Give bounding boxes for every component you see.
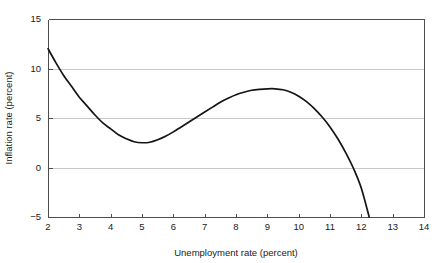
x-tick-label-12: 12 <box>356 221 367 232</box>
y-tick-label-5: 5 <box>36 112 41 123</box>
x-tick-label-14: 14 <box>419 221 430 232</box>
y-tick-label-15: 15 <box>30 13 41 24</box>
x-tick-label-6: 6 <box>171 221 176 232</box>
x-tick-label-9: 9 <box>265 221 270 232</box>
x-tick-label-5: 5 <box>139 221 144 232</box>
x-tick-label-2: 2 <box>45 221 50 232</box>
x-tick-label-13: 13 <box>387 221 398 232</box>
x-tick-label-4: 4 <box>108 221 113 232</box>
y-tick-label-10: 10 <box>30 63 41 74</box>
chart-background <box>0 0 444 263</box>
x-tick-label-7: 7 <box>202 221 207 232</box>
x-tick-label-3: 3 <box>77 221 82 232</box>
x-axis-title: Unemployment rate (percent) <box>174 247 298 258</box>
y-tick-label-0: 0 <box>36 162 41 173</box>
y-tick-label--5: −5 <box>30 211 41 222</box>
y-axis-title: Inflation rate (percent) <box>3 72 14 165</box>
x-tick-label-11: 11 <box>325 221 335 232</box>
chart-container: 234567891011121314 −5051015 Unemployment… <box>0 0 444 263</box>
phillips-curve-chart: 234567891011121314 −5051015 Unemployment… <box>0 0 444 263</box>
x-tick-label-10: 10 <box>293 221 304 232</box>
x-tick-label-8: 8 <box>233 221 238 232</box>
